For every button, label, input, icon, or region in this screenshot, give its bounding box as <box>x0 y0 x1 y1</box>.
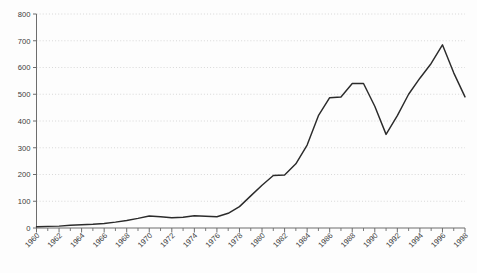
ytick-label-200: 200 <box>18 170 31 179</box>
xtick-label-1998: 1998 <box>452 231 470 249</box>
xtick-label-1970: 1970 <box>136 231 154 249</box>
xtick-label-1986: 1986 <box>316 231 334 249</box>
xtick-label-1978: 1978 <box>226 231 244 249</box>
ytick-label-100: 100 <box>18 197 31 206</box>
ytick-label-500: 500 <box>18 90 31 99</box>
xtick-label-1994: 1994 <box>406 231 424 249</box>
ytick-label-800: 800 <box>18 10 31 19</box>
xtick-label-1996: 1996 <box>429 231 447 249</box>
xtick-label-1974: 1974 <box>181 231 199 249</box>
xtick-label-1980: 1980 <box>249 231 267 249</box>
data-line-series-1 <box>37 45 466 227</box>
xtick-label-1976: 1976 <box>204 231 222 249</box>
chart-container: 0100200300400500600700800196019621964196… <box>0 0 477 273</box>
xtick-label-1972: 1972 <box>158 231 176 249</box>
line-chart: 0100200300400500600700800196019621964196… <box>0 0 477 273</box>
ytick-label-0: 0 <box>26 224 30 233</box>
ytick-label-700: 700 <box>18 37 31 46</box>
xtick-label-1984: 1984 <box>294 231 312 249</box>
xtick-label-1962: 1962 <box>46 231 64 249</box>
xtick-label-1982: 1982 <box>271 231 289 249</box>
xtick-label-1966: 1966 <box>91 231 109 249</box>
ytick-label-300: 300 <box>18 144 31 153</box>
xtick-label-1968: 1968 <box>113 231 131 249</box>
xtick-label-1988: 1988 <box>339 231 357 249</box>
ytick-label-400: 400 <box>18 117 31 126</box>
xtick-label-1964: 1964 <box>68 231 86 249</box>
xtick-label-1990: 1990 <box>361 231 379 249</box>
xtick-label-1960: 1960 <box>23 231 41 249</box>
ytick-label-600: 600 <box>18 63 31 72</box>
xtick-label-1992: 1992 <box>384 231 402 249</box>
